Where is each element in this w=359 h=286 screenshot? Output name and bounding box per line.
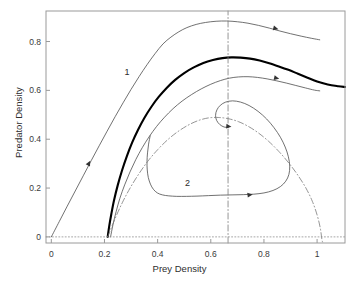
x-tick-label: 0.4 [152, 249, 164, 259]
x-tick-label: 0.8 [258, 249, 270, 259]
y-tick-label: 0.8 [22, 37, 41, 47]
curve-trajectory-2-spiral [147, 101, 290, 197]
y-tick-label: 0.4 [22, 134, 41, 144]
direction-arrow [247, 193, 252, 198]
y-axis-label: Predator Density [13, 53, 24, 193]
y-tick-label: 0.6 [22, 85, 41, 95]
curve-limit-cycle-thick [108, 57, 345, 237]
direction-arrow [273, 26, 279, 31]
x-tick-label: 0.6 [205, 249, 217, 259]
predator-prey-phase-portrait: 00.20.40.60.8100.20.40.60.8 12 Prey Dens… [0, 0, 359, 286]
x-tick-label: 0 [49, 249, 54, 259]
series-layer [46, 11, 345, 243]
direction-arrow [274, 75, 280, 80]
curve-number-label: 1 [125, 67, 130, 77]
x-tick-label: 1 [315, 249, 320, 259]
y-tick-label: 0.2 [22, 183, 41, 193]
tick-marks-layer [46, 42, 317, 243]
x-axis-label: Prey Density [0, 263, 359, 274]
plot-canvas [0, 0, 359, 286]
axes-layer [46, 11, 345, 243]
curve-trajectory-1-outer [51, 21, 319, 237]
x-tick-label: 0.2 [99, 249, 111, 259]
y-tick-label: 0 [22, 232, 41, 242]
plot-frame [46, 11, 345, 243]
curve-prey-nullcline [108, 117, 323, 243]
direction-arrow [226, 124, 231, 129]
direction-arrow [86, 161, 91, 167]
direction-arrows-layer [86, 26, 280, 198]
curve-number-label: 2 [185, 178, 190, 188]
